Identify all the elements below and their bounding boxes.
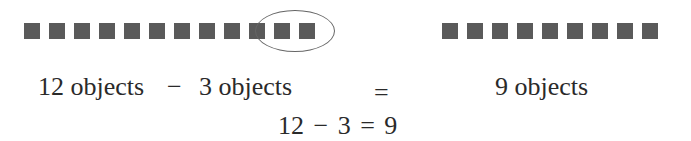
object-square	[642, 23, 658, 39]
object-square	[74, 23, 90, 39]
object-square	[492, 23, 508, 39]
object-square	[49, 23, 65, 39]
object-square	[149, 23, 165, 39]
object-square	[124, 23, 140, 39]
numeric-equation: 12 − 3 = 9	[278, 113, 397, 139]
object-square	[24, 23, 40, 39]
object-square	[199, 23, 215, 39]
left-term: 12 objects	[38, 74, 144, 100]
object-square	[542, 23, 558, 39]
result-term: 9 objects	[495, 74, 588, 100]
object-square	[617, 23, 633, 39]
right-term: 3 objects	[199, 74, 292, 100]
object-square	[174, 23, 190, 39]
object-square	[517, 23, 533, 39]
object-square	[224, 23, 240, 39]
object-square	[99, 23, 115, 39]
object-square	[442, 23, 458, 39]
object-square	[592, 23, 608, 39]
object-square	[467, 23, 483, 39]
removed-objects-circle	[255, 10, 335, 52]
equals-sign: =	[374, 80, 389, 106]
object-square	[567, 23, 583, 39]
minus-sign: −	[167, 74, 182, 100]
